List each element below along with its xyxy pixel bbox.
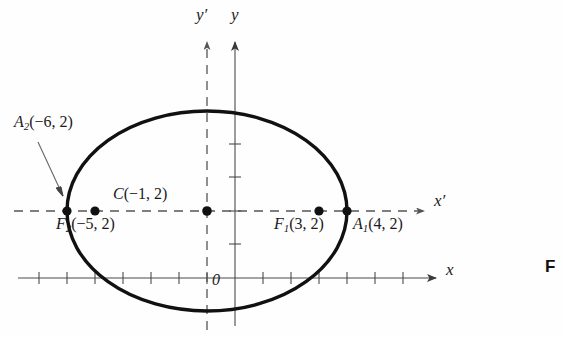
figure-caption: F	[545, 257, 555, 277]
y-axis-label: y	[231, 6, 239, 23]
point-label-F2-base: F	[56, 215, 66, 232]
y-prime-axis-label: y′	[196, 6, 207, 23]
point-label-C-coords: (−1, 2)	[124, 185, 168, 202]
point-label-F2: F2(−5, 2)	[56, 216, 115, 234]
point-C	[202, 206, 212, 216]
x-axis-label: x	[446, 261, 454, 278]
point-label-C: C(−1, 2)	[113, 186, 167, 202]
point-label-F1-base: F	[274, 215, 284, 232]
point-label-F2-coords: (−5, 2)	[71, 215, 115, 232]
ellipse-diagram-svg	[0, 0, 564, 337]
point-label-A2-coords: (−6, 2)	[29, 113, 73, 130]
y-axis	[229, 42, 241, 326]
figure-canvas: y′ y x′ x 0 A2(−6, 2) C(−1, 2) F2(−5, 2)…	[0, 0, 564, 337]
a2-leader-line	[38, 142, 63, 197]
x-axis	[18, 272, 436, 284]
point-label-A2-base: A	[14, 113, 24, 130]
point-label-A1-coords: (4, 2)	[368, 215, 403, 232]
point-label-F1-coords: (3, 2)	[289, 215, 324, 232]
point-label-F1: F1(3, 2)	[274, 216, 324, 234]
point-label-A1-base: A	[353, 215, 363, 232]
point-label-A1: A1(4, 2)	[353, 216, 403, 234]
point-label-C-base: C	[113, 185, 124, 202]
point-A1	[342, 206, 351, 215]
point-label-A2: A2(−6, 2)	[14, 114, 73, 132]
x-prime-axis-label: x′	[434, 192, 445, 209]
origin-label: 0	[212, 272, 220, 288]
